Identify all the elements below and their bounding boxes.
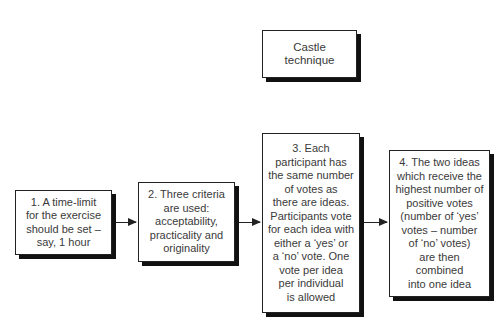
arrow-1-to-2 <box>116 222 136 223</box>
step-3-text: 3. Each participant has the same number … <box>268 142 354 304</box>
title-text: Castle technique <box>267 41 352 68</box>
step-2-box: 2. Three criteria are used: acceptabilit… <box>138 182 235 262</box>
arrow-2-to-3 <box>239 222 260 223</box>
step-1-box: 1. A time-limit for the exercise should … <box>15 190 112 255</box>
arrow-3-to-4 <box>364 222 387 223</box>
step-4-text: 4. The two ideas which receive the highe… <box>395 156 483 291</box>
step-3-box: 3. Each participant has the same number … <box>262 133 360 313</box>
diagram-title: Castle technique <box>262 30 357 78</box>
step-1-text: 1. A time-limit for the exercise should … <box>26 196 101 250</box>
step-2-text: 2. Three criteria are used: acceptabilit… <box>148 188 225 256</box>
step-4-box: 4. The two ideas which receive the highe… <box>389 150 490 297</box>
